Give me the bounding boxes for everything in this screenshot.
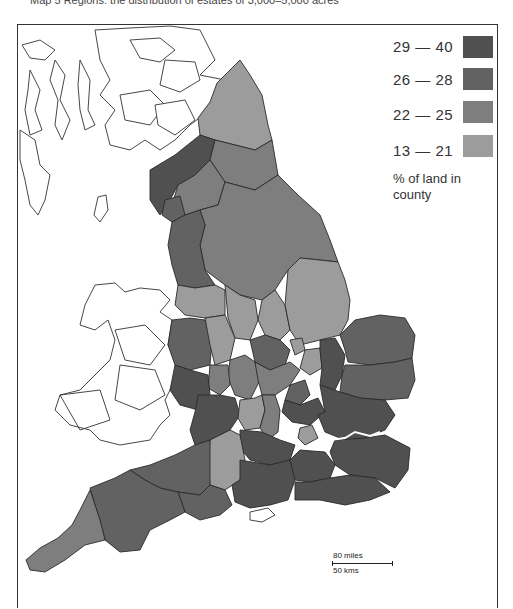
scale-miles-label: 80 miles — [333, 551, 363, 560]
county-rutland — [290, 338, 305, 355]
legend-caption-line2: county — [393, 187, 461, 203]
coastline — [20, 130, 50, 215]
county-worcestershire — [208, 365, 230, 395]
county-surrey — [290, 450, 335, 482]
county-northumberland — [198, 60, 272, 150]
legend-label-1: 29 — 40 — [393, 38, 453, 55]
county-huntingdon — [300, 348, 322, 375]
legend-caption: % of land in county — [393, 171, 461, 203]
county-suffolk — [340, 358, 415, 400]
legend-caption-line1: % of land in — [393, 171, 461, 187]
scale-bar — [332, 563, 392, 564]
county-shropshire — [168, 318, 212, 370]
coastline — [22, 40, 55, 60]
legend-label-2: 26 — 28 — [393, 71, 453, 88]
county-cheshire — [175, 285, 225, 318]
legend-label-3: 22 — 25 — [393, 106, 453, 123]
isle-of-wight — [250, 508, 275, 522]
wales — [55, 283, 180, 445]
legend-swatch-3 — [463, 101, 493, 123]
legend-swatch-4 — [463, 135, 493, 157]
legend-swatch-1 — [463, 36, 493, 58]
coastline — [50, 60, 70, 140]
legend-swatch-2 — [463, 68, 493, 90]
county-berkshire — [240, 430, 295, 465]
county-cornwall — [26, 490, 105, 572]
isle-of-man — [94, 195, 108, 222]
legend-label-4: 13 — 21 — [393, 142, 453, 159]
county-middlesex — [298, 425, 318, 445]
county-hampshire — [232, 460, 295, 508]
england-choropleth-map — [0, 0, 513, 609]
coastline — [25, 70, 42, 135]
county-lincolnshire — [285, 258, 350, 345]
county-norfolk — [340, 315, 415, 365]
coastline — [78, 60, 95, 130]
scale-tick-right — [392, 561, 393, 566]
scale-kms-label: 50 kms — [333, 566, 359, 575]
